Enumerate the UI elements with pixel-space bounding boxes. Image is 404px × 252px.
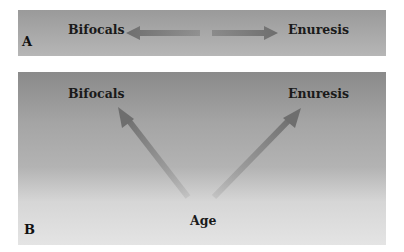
causal-arrows-icon xyxy=(18,72,386,245)
double-arrow-icon xyxy=(18,10,386,56)
panel-a: A Bifocals Enuresis xyxy=(18,10,386,56)
panel-b: B Bifocals Enuresis Age xyxy=(18,72,386,245)
